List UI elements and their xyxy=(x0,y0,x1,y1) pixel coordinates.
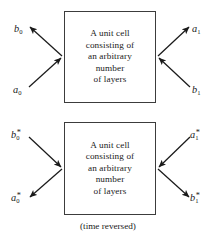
unit-cell-text-line: number xyxy=(96,174,125,185)
arrow-b1 xyxy=(159,58,190,87)
port-label-b1: b1 xyxy=(192,85,200,95)
unit-cell-text-line: A unit cell xyxy=(90,140,129,151)
unit-cell-box-time-reversed: A unit cell consisting of an arbitrary n… xyxy=(64,122,156,215)
unit-cell-text-line: an arbitrary xyxy=(88,163,132,174)
unit-cell-scattering-diagram: A unit cell consisting of an arbitrary n… xyxy=(0,0,216,243)
port-label-a0-star: a0* xyxy=(11,193,24,203)
arrow-b0-star xyxy=(29,137,61,167)
arrow-a0-star xyxy=(30,169,62,197)
unit-cell-box-forward: A unit cell consisting of an arbitrary n… xyxy=(64,11,156,103)
unit-cell-text-line: consisting of xyxy=(86,40,135,51)
unit-cell-text-line: number xyxy=(96,63,125,74)
unit-cell-text-line: consisting of xyxy=(86,151,135,162)
port-label-a0: a0 xyxy=(13,85,21,95)
arrow-a0 xyxy=(29,58,61,87)
port-label-a1-star: a1* xyxy=(190,130,203,140)
unit-cell-text-line: A unit cell xyxy=(90,28,129,39)
unit-cell-text-line: of layers xyxy=(94,74,127,85)
port-label-b0-star: b0* xyxy=(11,130,24,140)
unit-cell-text-line: of layers xyxy=(94,186,127,197)
port-label-a1: a1 xyxy=(192,24,200,34)
figure-caption: (time reversed) xyxy=(0,222,216,231)
arrow-a1 xyxy=(158,27,189,56)
arrow-b1-star xyxy=(158,169,189,197)
arrow-a1-star xyxy=(159,137,190,167)
arrow-b0 xyxy=(30,27,62,56)
port-label-b1-star: b1* xyxy=(190,193,203,203)
unit-cell-text-line: an arbitrary xyxy=(88,51,132,62)
port-label-b0: b0 xyxy=(14,24,22,34)
